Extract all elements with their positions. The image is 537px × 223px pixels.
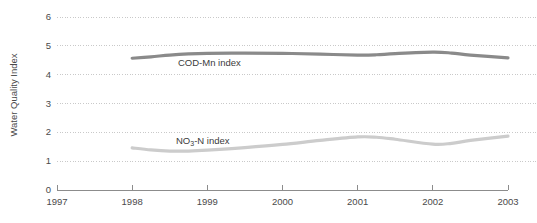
y-tick-label: 3 <box>35 99 51 109</box>
x-axis-group <box>57 185 508 190</box>
x-tick-label: 2003 <box>488 197 528 207</box>
x-tick-label: 1998 <box>112 197 152 207</box>
x-tick-label: 1997 <box>37 197 77 207</box>
x-tick-label: 2002 <box>413 197 453 207</box>
series-label-2: NO3-N index <box>176 136 230 147</box>
x-tick-label: 1999 <box>187 197 227 207</box>
plot-area <box>0 0 537 223</box>
y-tick-label: 2 <box>35 127 51 137</box>
gridlines-group <box>57 17 537 161</box>
series-label-1: COD-Mn index <box>178 58 241 68</box>
y-tick-label: 0 <box>35 185 51 195</box>
y-tick-label: 4 <box>35 70 51 80</box>
y-tick-label: 5 <box>35 41 51 51</box>
x-tick-label: 2001 <box>338 197 378 207</box>
y-tick-label: 6 <box>35 12 51 22</box>
water-quality-index-line-chart: Water Quality Index 0123456 199719981999… <box>0 0 537 223</box>
x-tick-label: 2000 <box>263 197 303 207</box>
y-tick-label: 1 <box>35 156 51 166</box>
